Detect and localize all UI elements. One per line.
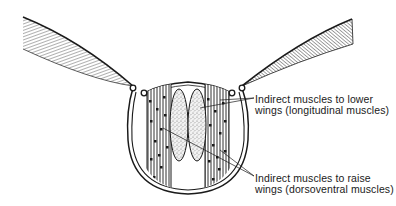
pivot-left-outer: [130, 85, 136, 91]
label-raise-line2: wings (dorsoventral muscles): [255, 184, 394, 195]
thorax-wall: [128, 82, 249, 194]
left-wing: [23, 17, 133, 86]
pivot-right-outer: [239, 85, 245, 91]
longitudinal-muscles: [170, 89, 206, 161]
label-lower-line2: wings (longitudinal muscles): [255, 105, 389, 116]
dorsoventral-muscle-right: [205, 84, 229, 194]
label-dorsoventral-muscles: Indirect muscles to raise wings (dorsove…: [255, 173, 394, 195]
label-longitudinal-muscles: Indirect muscles to lower wings (longitu…: [255, 94, 389, 116]
dorsoventral-muscle-left: [147, 84, 171, 194]
pivot-right-inner: [229, 90, 235, 96]
pivot-left-inner: [141, 90, 147, 96]
right-wing: [242, 19, 353, 86]
